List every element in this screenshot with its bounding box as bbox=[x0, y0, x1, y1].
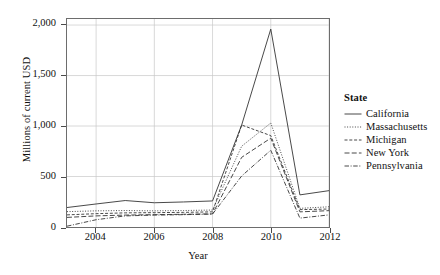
legend-label: Pennsylvania bbox=[366, 160, 423, 171]
legend-item[interactable]: Michigan bbox=[344, 133, 440, 146]
legend: State CaliforniaMassachusettsMichiganNew… bbox=[344, 92, 440, 172]
legend-label: Massachusetts bbox=[366, 121, 427, 132]
legend-item[interactable]: New York bbox=[344, 146, 440, 159]
legend-items: CaliforniaMassachusettsMichiganNew YorkP… bbox=[344, 107, 440, 172]
legend-line-swatch bbox=[344, 122, 362, 132]
legend-title: State bbox=[344, 92, 440, 103]
x-tick-mark bbox=[213, 228, 214, 233]
plot-canvas bbox=[67, 19, 329, 227]
legend-line-swatch bbox=[344, 109, 362, 119]
legend-item[interactable]: Pennsylvania bbox=[344, 159, 440, 172]
x-tick-mark bbox=[95, 228, 96, 233]
legend-line-swatch bbox=[344, 161, 362, 171]
legend-label: New York bbox=[366, 147, 409, 158]
legend-item[interactable]: California bbox=[344, 107, 440, 120]
x-tick-mark bbox=[154, 228, 155, 233]
legend-item[interactable]: Massachusetts bbox=[344, 120, 440, 133]
x-tick-mark bbox=[271, 228, 272, 233]
chart-figure: Millions of current USD 05001,0001,5002,… bbox=[0, 0, 440, 275]
legend-line-swatch bbox=[344, 135, 362, 145]
legend-label: Michigan bbox=[366, 134, 407, 145]
plot-area bbox=[66, 18, 330, 228]
x-axis-label: Year bbox=[66, 250, 330, 261]
legend-line-swatch bbox=[344, 148, 362, 158]
x-tick-mark bbox=[330, 228, 331, 233]
legend-label: California bbox=[366, 108, 409, 119]
